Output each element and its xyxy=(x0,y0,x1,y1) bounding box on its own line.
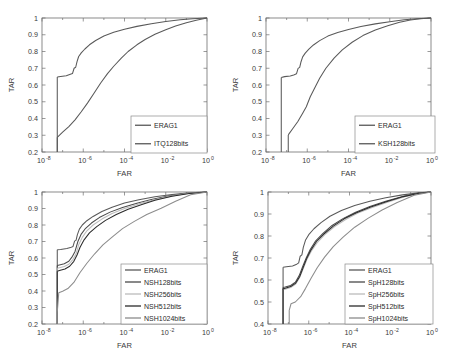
legend-label-nsh512bits: NSH512bits xyxy=(144,303,182,310)
x-tick-label: 10 xyxy=(161,328,169,337)
x-tick-label: 10 xyxy=(385,328,393,337)
x-axis-label: FAR xyxy=(117,341,132,350)
x-tick-exponent: 0 xyxy=(435,327,438,333)
curve-nsh256bits xyxy=(57,192,207,268)
y-tick-label: 0.4 xyxy=(28,287,38,296)
y-tick-label: 0.8 xyxy=(254,232,264,241)
x-tick-exponent: -8 xyxy=(46,327,51,333)
curve-erag1 xyxy=(283,192,431,267)
x-tick-label: 10 xyxy=(344,156,352,165)
x-tick-label: 10 xyxy=(161,156,169,165)
plot-canvas-bottom-left: 10-810-610-410-210010.90.80.70.60.50.40.… xyxy=(0,178,225,357)
y-tick-label: 0.3 xyxy=(252,131,262,140)
y-tick-label: 0.6 xyxy=(28,254,38,263)
y-tick-label: 0.5 xyxy=(254,298,264,307)
legend-label-itq128bits: ITQ128bits xyxy=(154,140,189,148)
x-tick-exponent: -2 xyxy=(170,155,175,161)
y-tick-label: 0.2 xyxy=(252,148,262,157)
legend-label-sph128bits: SpH128bits xyxy=(368,279,405,287)
y-tick-label: 0.6 xyxy=(252,81,262,90)
x-tick-exponent: -2 xyxy=(170,327,175,333)
x-tick-label: 10 xyxy=(385,156,393,165)
y-tick-label: 1 xyxy=(258,14,262,23)
y-tick-label: 0.4 xyxy=(252,114,262,123)
y-tick-label: 0.5 xyxy=(252,97,262,106)
legend-label-sph1024bits: SpH1024bits xyxy=(368,315,409,323)
curve-erag1 xyxy=(57,18,207,77)
y-tick-label: 0.9 xyxy=(28,204,38,213)
legend-label-ksh128bits: KSH128bits xyxy=(378,140,415,147)
x-tick-label: 10 xyxy=(37,328,45,337)
legend-label-erag1: ERAG1 xyxy=(368,267,392,274)
y-tick-label: 1 xyxy=(34,188,38,197)
legend-label-nsh1024bits: NSH1024bits xyxy=(144,315,186,322)
y-tick-label: 0.9 xyxy=(28,30,38,39)
y-axis-label: TAR xyxy=(7,250,16,265)
x-tick-label: 10 xyxy=(263,328,271,337)
x-tick-exponent: -4 xyxy=(353,155,358,161)
curve-erag1 xyxy=(57,192,207,250)
x-tick-label: 10 xyxy=(202,156,210,165)
y-tick-label: 0.3 xyxy=(28,131,38,140)
x-tick-label: 10 xyxy=(78,156,86,165)
legend-label-erag1: ERAG1 xyxy=(144,267,168,274)
x-tick-label: 10 xyxy=(37,156,45,165)
plot-canvas-top-right: 10-810-610-410-210010.90.80.70.60.50.40.… xyxy=(224,0,449,178)
x-tick-label: 10 xyxy=(120,328,128,337)
x-tick-label: 10 xyxy=(302,156,310,165)
y-tick-label: 1 xyxy=(34,14,38,23)
x-tick-label: 10 xyxy=(120,156,128,165)
y-tick-label: 0.8 xyxy=(252,47,262,56)
x-axis-label: FAR xyxy=(342,341,357,350)
plot-canvas-bottom-right: 10-810-610-410-210010.90.80.70.60.50.4FA… xyxy=(224,178,449,357)
y-tick-label: 0.7 xyxy=(252,64,262,73)
x-tick-exponent: -6 xyxy=(313,327,318,333)
y-tick-label: 0.5 xyxy=(28,270,38,279)
x-tick-exponent: -4 xyxy=(354,327,359,333)
x-tick-label: 10 xyxy=(304,328,312,337)
curve-nsh512bits xyxy=(57,192,207,271)
curve-erag1 xyxy=(281,18,431,77)
x-tick-exponent: -6 xyxy=(87,155,92,161)
x-tick-exponent: -6 xyxy=(311,155,316,161)
legend-label-erag1: ERAG1 xyxy=(154,122,178,129)
y-axis-label: TAR xyxy=(231,250,240,265)
x-tick-label: 10 xyxy=(426,156,434,165)
x-tick-exponent: -4 xyxy=(129,155,134,161)
y-tick-label: 0.7 xyxy=(254,254,264,263)
x-tick-exponent: -2 xyxy=(394,327,399,333)
x-tick-label: 10 xyxy=(78,328,86,337)
y-tick-label: 0.9 xyxy=(254,210,264,219)
legend-label-sph256bits: SpH256bits xyxy=(368,291,405,299)
legend-label-nsh128bits: NSH128bits xyxy=(144,279,182,286)
panel-bottom-right: 10-810-610-410-210010.90.80.70.60.50.4FA… xyxy=(224,178,449,357)
y-tick-label: 0.4 xyxy=(254,320,264,329)
legend-label-nsh256bits: NSH256bits xyxy=(144,291,182,298)
y-tick-label: 0.2 xyxy=(28,148,38,157)
y-tick-label: 1 xyxy=(260,188,264,197)
plot-canvas-top-left: 10-810-610-410-210010.90.80.70.60.50.40.… xyxy=(0,0,225,178)
x-tick-exponent: -2 xyxy=(394,155,399,161)
y-tick-label: 0.8 xyxy=(28,221,38,230)
x-tick-label: 10 xyxy=(261,156,269,165)
y-tick-label: 0.5 xyxy=(28,97,38,106)
y-tick-label: 0.6 xyxy=(254,276,264,285)
x-axis-label: FAR xyxy=(117,169,132,178)
x-tick-exponent: -8 xyxy=(272,327,277,333)
x-tick-label: 10 xyxy=(426,328,434,337)
panel-top-right: 10-810-610-410-210010.90.80.70.60.50.40.… xyxy=(224,0,449,178)
y-tick-label: 0.9 xyxy=(252,30,262,39)
x-tick-exponent: 0 xyxy=(211,327,214,333)
x-tick-exponent: 0 xyxy=(211,155,214,161)
y-tick-label: 0.8 xyxy=(28,47,38,56)
x-tick-exponent: 0 xyxy=(435,155,438,161)
panel-top-left: 10-810-610-410-210010.90.80.70.60.50.40.… xyxy=(0,0,225,178)
legend-label-sph512bits: SpH512bits xyxy=(368,303,405,311)
y-tick-label: 0.3 xyxy=(28,303,38,312)
panel-bottom-left: 10-810-610-410-210010.90.80.70.60.50.40.… xyxy=(0,178,225,357)
figure-root: 10-810-610-410-210010.90.80.70.60.50.40.… xyxy=(0,0,449,357)
x-tick-exponent: -8 xyxy=(46,155,51,161)
y-axis-label: TAR xyxy=(231,77,240,92)
y-axis-label: TAR xyxy=(7,77,16,92)
y-tick-label: 0.4 xyxy=(28,114,38,123)
